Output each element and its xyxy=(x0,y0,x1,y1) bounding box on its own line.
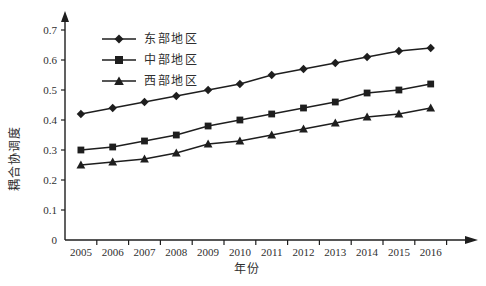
data-point-diamond xyxy=(236,80,244,88)
y-tick-label: 0.6 xyxy=(43,54,57,66)
x-tick-label: 2011 xyxy=(261,246,283,258)
x-tick-label: 2016 xyxy=(420,246,443,258)
y-tick-label: 0.7 xyxy=(43,24,57,36)
x-tick-label: 2006 xyxy=(102,246,125,258)
data-point-square xyxy=(364,90,371,97)
data-point-diamond xyxy=(268,71,276,79)
data-point-square xyxy=(205,123,212,130)
x-tick-label: 2008 xyxy=(165,246,188,258)
data-point-diamond xyxy=(204,86,212,94)
data-point-diamond xyxy=(140,98,148,106)
data-point-diamond xyxy=(109,104,117,112)
x-tick-label: 2010 xyxy=(229,246,252,258)
data-point-square xyxy=(173,132,180,139)
data-point-square xyxy=(268,111,275,118)
y-tick-label: 0 xyxy=(52,234,58,246)
x-tick-label: 2013 xyxy=(324,246,347,258)
data-point-diamond xyxy=(363,53,371,61)
legend: 东部地区 中部地区 西部地区 xyxy=(101,32,198,95)
legend-item-west: 西部地区 xyxy=(101,74,198,88)
legend-label-west: 西部地区 xyxy=(144,74,198,88)
data-point-square xyxy=(332,99,339,106)
legend-label-east: 东部地区 xyxy=(144,32,198,46)
data-point-square xyxy=(109,144,116,151)
data-point-square xyxy=(300,105,307,112)
x-tick-label: 2005 xyxy=(70,246,93,258)
y-tick-label: 0.5 xyxy=(43,84,57,96)
y-tick-label: 0.2 xyxy=(43,174,57,186)
x-axis-arrow-icon xyxy=(465,236,478,244)
legend-label-central: 中部地区 xyxy=(144,53,198,67)
line-chart-canvas: 00.10.20.30.40.50.60.7200520062007200820… xyxy=(0,0,486,286)
data-point-square xyxy=(396,87,403,94)
legend-item-east: 东部地区 xyxy=(101,32,198,46)
data-point-diamond xyxy=(77,110,85,118)
data-point-square xyxy=(78,147,85,154)
y-tick-label: 0.1 xyxy=(43,204,57,216)
data-point-diamond xyxy=(299,65,307,73)
data-point-diamond xyxy=(331,59,339,67)
data-point-triangle xyxy=(426,104,435,112)
x-tick-label: 2012 xyxy=(293,246,315,258)
x-tick-label: 2009 xyxy=(197,246,220,258)
data-point-diamond xyxy=(395,47,403,55)
diamond-marker-icon xyxy=(101,33,137,45)
data-point-diamond xyxy=(427,44,435,52)
y-tick-label: 0.4 xyxy=(43,114,57,126)
square-marker-icon xyxy=(101,54,137,66)
data-point-square xyxy=(237,117,244,124)
chart-figure: 00.10.20.30.40.50.60.7200520062007200820… xyxy=(0,0,486,286)
data-point-square xyxy=(427,81,434,88)
triangle-marker-icon xyxy=(101,75,137,87)
y-tick-label: 0.3 xyxy=(43,144,57,156)
y-axis-arrow-icon xyxy=(61,11,69,22)
data-point-square xyxy=(141,138,148,145)
x-tick-label: 2014 xyxy=(356,246,379,258)
x-tick-label: 2015 xyxy=(388,246,411,258)
x-tick-label: 2007 xyxy=(134,246,157,258)
legend-item-central: 中部地区 xyxy=(101,53,198,67)
